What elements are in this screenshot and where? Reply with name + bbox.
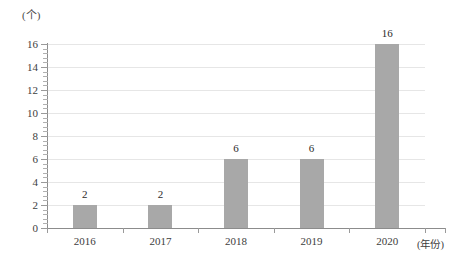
- x-axis-tick: [349, 228, 350, 233]
- y-axis-minor-tick: [43, 58, 48, 59]
- y-axis-minor-tick: [43, 219, 48, 220]
- x-axis-tick: [198, 228, 199, 233]
- y-axis-minor-tick: [43, 191, 48, 192]
- bar: [224, 159, 248, 228]
- y-axis-minor-tick: [43, 118, 48, 119]
- y-axis-major-tick: [41, 44, 48, 45]
- y-axis-minor-tick: [43, 177, 48, 178]
- y-axis-minor-tick: [43, 104, 48, 105]
- x-axis-end-tick: [445, 228, 446, 233]
- bar: [375, 44, 399, 228]
- y-axis-tick-label: 12: [16, 84, 38, 96]
- y-axis-major-tick: [41, 136, 48, 137]
- gridline: [47, 113, 425, 114]
- y-axis-tick-label: 2: [16, 199, 38, 211]
- x-axis-tick: [274, 228, 275, 233]
- y-axis-minor-tick: [43, 187, 48, 188]
- y-axis-minor-tick: [43, 223, 48, 224]
- y-axis-minor-tick: [43, 62, 48, 63]
- gridline: [47, 136, 425, 137]
- x-axis-category-label: 2020: [376, 235, 398, 247]
- y-axis-minor-tick: [43, 214, 48, 215]
- y-axis-minor-tick: [43, 154, 48, 155]
- y-axis-minor-tick: [43, 131, 48, 132]
- gridline: [47, 90, 425, 91]
- y-axis-minor-tick: [43, 210, 48, 211]
- y-axis-tick-label: 4: [16, 176, 38, 188]
- bar-chart-figure: (个) 0246810121416 226616 201620172018201…: [0, 0, 470, 265]
- x-axis-category-label: 2019: [301, 235, 323, 247]
- x-axis-line: [47, 228, 445, 229]
- bar: [148, 205, 172, 228]
- y-axis-minor-tick: [43, 76, 48, 77]
- x-axis-tick: [123, 228, 124, 233]
- x-axis-unit-label: (年份): [417, 236, 444, 251]
- y-axis-minor-tick: [43, 85, 48, 86]
- bar-value-label: 6: [309, 142, 315, 154]
- y-axis-tick-label: 6: [16, 153, 38, 165]
- x-axis-category-label: 2018: [225, 235, 247, 247]
- y-axis-tick-label: 10: [16, 107, 38, 119]
- y-axis-minor-tick: [43, 72, 48, 73]
- y-axis-minor-tick: [43, 122, 48, 123]
- y-axis-major-tick: [41, 67, 48, 68]
- x-axis-category-label: 2017: [149, 235, 171, 247]
- y-axis-tick-label: 0: [16, 222, 38, 234]
- y-axis-minor-tick: [43, 200, 48, 201]
- x-axis-tick: [425, 228, 426, 233]
- bar: [73, 205, 97, 228]
- x-axis-tick: [47, 228, 48, 233]
- bar-value-label: 2: [158, 188, 164, 200]
- y-axis-minor-tick: [43, 173, 48, 174]
- y-axis-major-tick: [41, 113, 48, 114]
- y-axis-minor-tick: [43, 145, 48, 146]
- y-axis-minor-tick: [43, 108, 48, 109]
- gridline: [47, 67, 425, 68]
- y-axis-minor-tick: [43, 99, 48, 100]
- y-axis-major-tick: [41, 205, 48, 206]
- y-axis-minor-tick: [43, 53, 48, 54]
- y-axis-minor-tick: [43, 196, 48, 197]
- y-axis-minor-tick: [43, 127, 48, 128]
- y-axis-tick-label: 16: [16, 38, 38, 50]
- y-axis-minor-tick: [43, 141, 48, 142]
- y-axis-major-tick: [41, 90, 48, 91]
- y-axis-labels: 0246810121416: [8, 0, 38, 265]
- x-axis-category-label: 2016: [74, 235, 96, 247]
- bar-value-label: 16: [382, 27, 393, 39]
- y-axis-minor-tick: [43, 164, 48, 165]
- y-axis-tick-label: 8: [16, 130, 38, 142]
- y-axis-minor-tick: [43, 150, 48, 151]
- gridline: [47, 44, 425, 45]
- y-axis-major-tick: [41, 182, 48, 183]
- bar: [300, 159, 324, 228]
- bar-value-label: 2: [82, 188, 88, 200]
- bar-value-label: 6: [233, 142, 239, 154]
- y-axis-minor-tick: [43, 168, 48, 169]
- y-axis-minor-tick: [43, 49, 48, 50]
- y-axis-tick-label: 14: [16, 61, 38, 73]
- y-axis-minor-tick: [43, 81, 48, 82]
- y-axis-major-tick: [41, 159, 48, 160]
- y-axis-minor-tick: [43, 95, 48, 96]
